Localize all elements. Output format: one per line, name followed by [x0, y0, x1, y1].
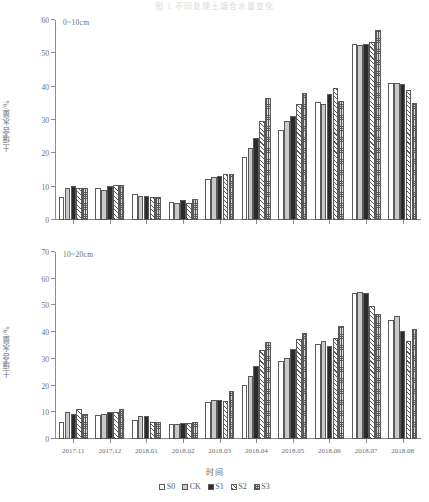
bar-s1: [290, 116, 296, 220]
x-tick-label: 2018.08: [391, 447, 414, 455]
bar-s3: [338, 101, 344, 220]
bar-group: [384, 20, 421, 220]
bar-group: [275, 20, 312, 220]
x-tick-mark: [110, 439, 111, 443]
bar-group: 2017.11: [55, 252, 92, 439]
bar-s1: [327, 346, 333, 439]
x-tick-mark: [256, 439, 257, 443]
x-tick-label: 2017.12: [99, 447, 122, 455]
legend-swatch-s3: [254, 484, 260, 490]
legend-item-s3[interactable]: S3: [254, 482, 270, 491]
bar-s2: [113, 412, 119, 439]
bar-s1: [253, 366, 259, 439]
bar-s2: [333, 88, 339, 220]
legend-item-s0[interactable]: S0: [159, 482, 175, 491]
bar-s2: [406, 341, 412, 439]
y-tick-label: 10: [42, 182, 50, 191]
bar-s0: [59, 197, 65, 220]
x-axis-title: 时间: [0, 466, 429, 477]
y-tick-label: 50: [42, 301, 50, 310]
bar-s3: [265, 342, 271, 440]
x-tick-label: 2018.03: [208, 447, 231, 455]
legend-item-ck[interactable]: CK: [182, 482, 201, 491]
figure-container: 图 1 不同处理土壤含水量变化 土壤含水量/% 0~10cm 010203040…: [0, 0, 429, 502]
legend-label: S2: [238, 482, 246, 491]
y-axis-title-bottom: 土壤含水量/%: [1, 326, 12, 378]
bar-group: 2018.01: [128, 252, 165, 439]
x-tick-mark: [146, 220, 147, 224]
bar-s3: [375, 314, 381, 439]
bar-s1: [217, 176, 223, 220]
bar-group: [92, 20, 129, 220]
legend-label: CK: [190, 482, 201, 491]
legend-swatch-ck: [182, 484, 188, 490]
bar-s2: [259, 121, 265, 220]
bar-s2: [223, 174, 229, 220]
bar-groups-bottom: 2017.112017.122018.012018.022018.032018.…: [55, 252, 421, 439]
bar-s3: [192, 422, 198, 439]
x-tick-mark: [220, 439, 221, 443]
bar-group: 2018.07: [348, 252, 385, 439]
legend-item-s1[interactable]: S1: [208, 482, 224, 491]
legend-item-s2[interactable]: S2: [231, 482, 247, 491]
bar-ck: [357, 292, 363, 439]
panel-0-10cm: 土壤含水量/% 0~10cm 0102030405060: [0, 12, 429, 240]
bar-s2: [296, 104, 302, 220]
y-tick-label: 20: [42, 381, 50, 390]
bar-s1: [144, 196, 150, 220]
x-tick-mark: [366, 220, 367, 224]
bar-s0: [132, 194, 138, 220]
legend-swatch-s0: [159, 484, 165, 490]
chart-legend: S0CKS1S2S3: [0, 482, 429, 491]
bar-s3: [229, 391, 235, 439]
bar-s1: [363, 44, 369, 220]
bar-s2: [333, 338, 339, 440]
bar-s1: [180, 423, 186, 439]
y-tick-label: 40: [42, 328, 50, 337]
bar-groups-top: [55, 20, 421, 220]
y-tick-label: 20: [42, 149, 50, 158]
bar-group: [311, 20, 348, 220]
bar-s0: [169, 202, 175, 220]
bar-s2: [369, 306, 375, 439]
bar-ck: [138, 196, 144, 220]
bar-s2: [406, 90, 412, 220]
bar-s0: [315, 102, 321, 220]
bar-s3: [82, 414, 88, 439]
bar-s0: [352, 293, 358, 439]
bar-s3: [155, 197, 161, 220]
x-tick-label: 2018.04: [245, 447, 268, 455]
bar-s0: [59, 422, 65, 439]
bar-ck: [248, 376, 254, 439]
bar-s1: [290, 349, 296, 439]
legend-swatch-s1: [208, 484, 214, 490]
bar-group: 2018.08: [384, 252, 421, 439]
bar-group: 2018.06: [311, 252, 348, 439]
x-tick-mark: [183, 439, 184, 443]
bar-group: [201, 20, 238, 220]
bar-ck: [248, 148, 254, 220]
bar-s1: [217, 400, 223, 439]
bar-s0: [205, 402, 211, 439]
bar-ck: [321, 341, 327, 439]
bar-s2: [150, 422, 156, 439]
bar-s2: [223, 401, 229, 439]
bar-s2: [76, 188, 82, 220]
bar-s3: [119, 409, 125, 439]
bar-s3: [229, 174, 235, 220]
bar-s3: [82, 188, 88, 220]
plot-area-bottom: 10~20cm 010203040506070 2017.112017.1220…: [55, 252, 421, 439]
bar-s3: [412, 329, 418, 439]
bar-s0: [388, 83, 394, 220]
x-tick-mark: [183, 220, 184, 224]
bar-s0: [278, 361, 284, 439]
panel-10-20cm: 土壤含水量/% 10~20cm 010203040506070 2017.112…: [0, 244, 429, 459]
bar-s2: [186, 423, 192, 439]
bar-ck: [284, 121, 290, 220]
bar-s1: [327, 94, 333, 220]
bar-group: [128, 20, 165, 220]
bar-s2: [186, 203, 192, 220]
bar-s1: [253, 138, 259, 220]
bar-s2: [113, 185, 119, 220]
bar-s3: [375, 30, 381, 220]
